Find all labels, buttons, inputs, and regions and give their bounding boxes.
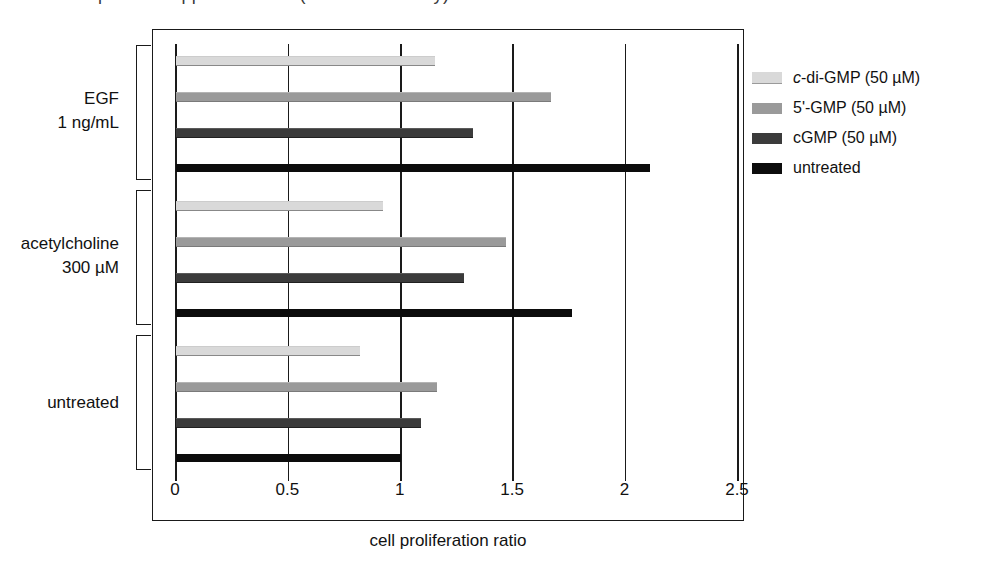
x-tick-label-0_5: 0.5 xyxy=(276,480,300,500)
x-tick-label-0: 0 xyxy=(170,480,179,500)
legend-swatch-untreated xyxy=(752,163,782,174)
group-label-acetylcholine: acetylcholine300 µM xyxy=(21,232,119,281)
legend-label-cgmp: cGMP (50 µM) xyxy=(793,129,897,147)
bar-acetylcholine-untreated xyxy=(176,309,572,317)
gridline-x-1 xyxy=(400,44,402,481)
gridline-x-1_5 xyxy=(512,44,514,481)
legend-swatch-cgmp xyxy=(752,133,782,144)
group-label-line2-egf: 1 ng/mL xyxy=(58,111,119,136)
gridline-x-2 xyxy=(625,44,627,481)
bar-egf-5gmp xyxy=(176,92,551,102)
group-bracket-acetylcholine xyxy=(136,190,151,325)
bar-untreated-5gmp xyxy=(176,382,437,392)
x-tick-label-1: 1 xyxy=(395,480,404,500)
bar-egf-untreated xyxy=(176,164,650,172)
legend-swatch-cdigmp xyxy=(752,72,782,84)
bar-egf-cdigmp xyxy=(176,56,435,66)
cropped-text-fragment-text: partial cropped text line (descenders on… xyxy=(98,0,449,5)
legend-item-cgmp: cGMP (50 µM) xyxy=(752,123,984,153)
group-label-egf: EGF1 ng/mL xyxy=(58,87,119,136)
bar-untreated-cdigmp xyxy=(176,346,360,356)
legend-item-untreated: untreated xyxy=(752,153,984,183)
legend-item-cdigmp: c-di-GMP (50 µM) xyxy=(752,63,984,93)
cropped-text-fragment: partial cropped text line (descenders on… xyxy=(0,0,986,14)
group-bracket-untreated xyxy=(136,335,151,470)
bar-acetylcholine-cdigmp xyxy=(176,201,383,211)
gridline-x-0_5 xyxy=(288,44,290,481)
group-label-line1-egf: EGF xyxy=(58,87,119,112)
legend-swatch-5gmp xyxy=(752,103,782,114)
group-bracket-egf xyxy=(136,45,151,180)
legend-item-5gmp: 5'-GMP (50 µM) xyxy=(752,93,984,123)
group-label-line2-acetylcholine: 300 µM xyxy=(21,256,119,281)
bar-egf-cgmp xyxy=(176,128,473,138)
group-label-line1-acetylcholine: acetylcholine xyxy=(21,232,119,257)
chart-legend: c-di-GMP (50 µM)5'-GMP (50 µM)cGMP (50 µ… xyxy=(752,63,984,183)
gridline-x-2_5 xyxy=(737,44,739,481)
x-tick-label-2_5: 2.5 xyxy=(725,480,749,500)
legend-label-5gmp: 5'-GMP (50 µM) xyxy=(793,99,906,117)
x-tick-label-1_5: 1.5 xyxy=(500,480,524,500)
gridline-x-0 xyxy=(175,44,177,481)
bar-untreated-untreated xyxy=(176,454,401,462)
x-axis-tick-labels: 00.511.522.5 xyxy=(175,480,775,504)
bar-untreated-cgmp xyxy=(176,418,421,428)
bar-acetylcholine-cgmp xyxy=(176,273,464,283)
group-label-line1-untreated: untreated xyxy=(47,391,119,416)
group-label-untreated: untreated xyxy=(47,391,119,416)
x-tick-label-2: 2 xyxy=(620,480,629,500)
x-axis-title: cell proliferation ratio xyxy=(152,531,744,551)
chart-plot-area xyxy=(176,44,738,481)
chart-plot-frame xyxy=(152,29,744,521)
bar-acetylcholine-5gmp xyxy=(176,237,506,247)
legend-label-untreated: untreated xyxy=(793,159,861,177)
legend-label-cdigmp: c-di-GMP (50 µM) xyxy=(793,69,920,87)
